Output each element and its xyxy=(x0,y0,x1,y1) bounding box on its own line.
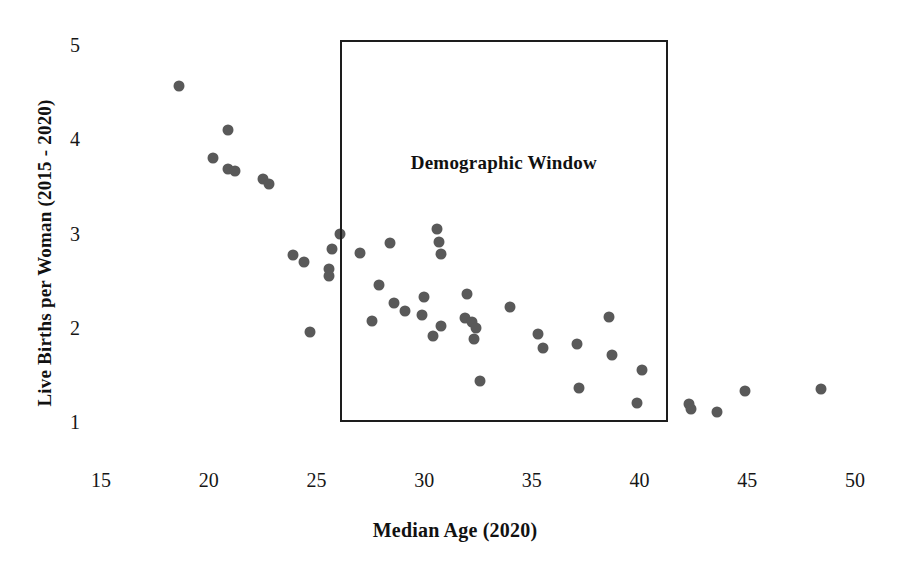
x-tick-label: 15 xyxy=(91,469,111,492)
data-point xyxy=(173,81,184,92)
data-point xyxy=(264,179,275,190)
data-point xyxy=(229,166,240,177)
y-tick-label: 3 xyxy=(70,222,80,245)
x-axis-title: Median Age (2020) xyxy=(0,519,910,542)
data-point xyxy=(298,256,309,267)
data-point xyxy=(223,124,234,135)
x-tick-label: 30 xyxy=(414,469,434,492)
y-axis-title: Live Births per Woman (2015 - 2020) xyxy=(34,23,56,483)
data-point xyxy=(326,243,337,254)
scatter-chart-figure: Demographic Window 1520253035404550 1234… xyxy=(0,0,910,573)
data-point xyxy=(324,270,335,281)
x-tick-label: 50 xyxy=(845,469,865,492)
data-point xyxy=(208,153,219,164)
x-tick-label: 40 xyxy=(630,469,650,492)
y-tick-label: 5 xyxy=(70,34,80,57)
data-point xyxy=(712,406,723,417)
x-tick-label: 25 xyxy=(306,469,326,492)
data-point xyxy=(815,384,826,395)
demographic-window-rectangle xyxy=(340,40,667,422)
y-tick-label: 4 xyxy=(70,128,80,151)
x-tick-label: 45 xyxy=(737,469,757,492)
y-tick-label: 2 xyxy=(70,316,80,339)
demographic-window-label: Demographic Window xyxy=(411,152,597,174)
y-tick-label: 1 xyxy=(70,411,80,434)
data-point xyxy=(686,403,697,414)
x-tick-label: 20 xyxy=(199,469,219,492)
data-point xyxy=(287,250,298,261)
data-point xyxy=(740,385,751,396)
x-tick-label: 35 xyxy=(522,469,542,492)
data-point xyxy=(304,327,315,338)
